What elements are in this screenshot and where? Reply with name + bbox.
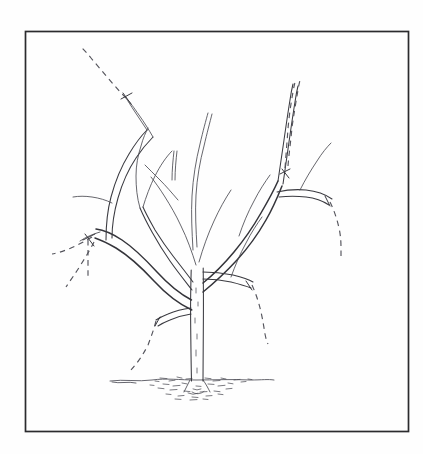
branch-left-lower-upper-edge <box>96 229 192 300</box>
plate-border-group <box>26 32 409 432</box>
branch-left-inner-upper <box>143 207 193 282</box>
branch-center-left-v <box>151 177 196 265</box>
removal-branch-upper-left <box>82 48 126 98</box>
ground-line-left-tail <box>112 382 136 383</box>
cut-mark-lower-right <box>246 281 252 290</box>
branch-center-right-v <box>199 190 231 262</box>
branch-right-lateral-lower <box>279 196 329 205</box>
branch-right-lateral-upper <box>277 190 332 199</box>
branch-left-lower-lower-edge <box>95 238 192 310</box>
branch-central-leader-edge <box>196 114 212 247</box>
root-flare-right <box>203 380 210 392</box>
branch-left-inner-lower <box>140 208 192 290</box>
tree-pruning-illustration <box>0 0 423 454</box>
plate-border <box>26 32 409 432</box>
branch-inner-spur-a <box>172 151 174 180</box>
main-trunk <box>191 268 204 381</box>
branch-left-inner-rise <box>143 151 172 207</box>
branch-inner-spur-b <box>175 151 177 180</box>
removal-branches <box>52 48 341 372</box>
mulch-texture <box>150 377 252 400</box>
branch-central-leader <box>192 113 208 250</box>
removal-branch-lower-right <box>252 285 268 344</box>
branch-right-lateral-rise <box>300 143 331 190</box>
branch-right-main-lower-edge <box>203 186 282 292</box>
branch-inner-left-short <box>145 165 178 200</box>
cut-marks <box>83 93 330 326</box>
branch-right-main-tip-right <box>283 86 298 184</box>
removal-branch-upright-sprout-b <box>288 77 301 166</box>
trunk-left-edge <box>191 270 192 381</box>
removal-branch-lower-left <box>129 321 156 372</box>
branch-upper-left-tip-edge <box>127 99 153 137</box>
scaffold-branches <box>73 84 332 326</box>
branch-right-inner-rise <box>231 217 262 277</box>
branch-upper-left-lateral <box>73 196 112 203</box>
removal-branch-right-lateral <box>330 202 341 258</box>
removal-branch-left-outer <box>52 237 92 254</box>
root-flare-left <box>184 380 190 392</box>
branch-upper-left-tip <box>126 98 147 130</box>
figure-root: Tree pruning diagram main trunk scaffold… <box>0 0 423 454</box>
